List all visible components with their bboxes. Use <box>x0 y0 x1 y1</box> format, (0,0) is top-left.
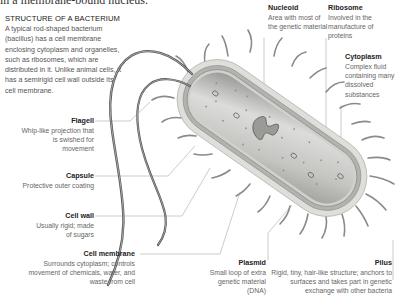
label-flagell-title: Flagell <box>20 116 94 126</box>
label-cell-wall-title: Cell wall <box>30 211 94 221</box>
label-flagell-desc: Whip-like projection that is swished for… <box>21 127 94 153</box>
label-ribosome-title: Ribosome <box>328 3 388 13</box>
label-cell-wall-desc: Usually rigid; made of sugars <box>36 222 94 238</box>
label-nucleoid: Nucleoid Area with most of the genetic m… <box>268 3 328 31</box>
label-cytoplasm-desc: Complex fluid containing many dissolved … <box>345 63 395 98</box>
label-cytoplasm: Cytoplasm Complex fluid containing many … <box>345 52 401 99</box>
label-ribosome-desc: Involved in the manufacture of proteins <box>328 14 373 40</box>
label-cell-membrane-desc: Surrounds cytoplasm; controls movement o… <box>28 260 135 286</box>
label-pilus: Pilus Rigid, tiny, hair-like structure; … <box>262 258 392 295</box>
label-capsule: Capsule Protective outer coating <box>20 171 94 190</box>
label-pilus-title: Pilus <box>262 258 392 268</box>
label-cell-membrane-title: Cell membrane <box>25 249 135 259</box>
label-capsule-title: Capsule <box>20 171 94 181</box>
label-cell-membrane: Cell membrane Surrounds cytoplasm; contr… <box>25 249 135 287</box>
label-pilus-desc: Rigid, tiny, hair-like structure; anchor… <box>271 269 392 295</box>
label-nucleoid-title: Nucleoid <box>268 3 328 13</box>
label-flagell: Flagell Whip-like projection that is swi… <box>20 116 94 154</box>
label-ribosome: Ribosome Involved in the manufacture of … <box>328 3 388 41</box>
label-cell-wall: Cell wall Usually rigid; made of sugars <box>30 211 94 239</box>
label-plasmid-desc: Small loop of extra genetic material (DN… <box>210 269 266 295</box>
label-capsule-desc: Protective outer coating <box>23 182 94 189</box>
label-plasmid-title: Plasmid <box>198 258 266 268</box>
label-plasmid: Plasmid Small loop of extra genetic mate… <box>198 258 266 295</box>
label-nucleoid-desc: Area with most of the genetic material <box>268 14 327 30</box>
label-cytoplasm-title: Cytoplasm <box>345 52 401 62</box>
